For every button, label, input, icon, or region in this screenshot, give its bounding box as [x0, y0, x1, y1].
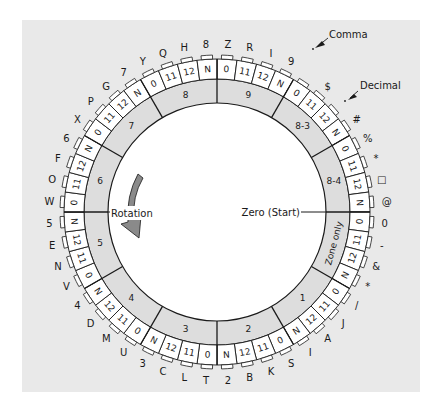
outer-character: U [120, 347, 127, 358]
outer-character: E [49, 240, 55, 251]
outer-character: Y [139, 56, 147, 67]
cell-code-label: 0 [204, 350, 211, 360]
sector-label: 8-4 [327, 176, 342, 186]
outer-character: D [87, 318, 95, 329]
outer-character: / [355, 300, 359, 311]
outer-character: L [181, 372, 187, 383]
outer-character: 5 [46, 218, 52, 229]
outer-character: 6 [63, 133, 69, 144]
outer-character: Q [159, 48, 167, 59]
print-wheel-diagram: 01112N01112N01112N01112N01112N01112N0111… [0, 0, 437, 408]
outer-character: O [48, 174, 56, 185]
cell-tab [369, 216, 374, 228]
outer-character: 8 [203, 39, 209, 50]
zero-start-label: Zero (Start) [242, 207, 301, 218]
cell-tab [369, 196, 374, 208]
cell-code-label: N [354, 199, 364, 206]
cell-code-label: 0 [355, 218, 365, 225]
outer-character: W [44, 196, 54, 207]
outer-character: # [352, 114, 360, 125]
outer-character: * [374, 153, 379, 164]
sector-label: 6 [97, 176, 103, 186]
outer-character: F [55, 153, 61, 164]
cell-code-label: 0 [69, 199, 79, 206]
outer-character: S [288, 358, 294, 369]
sector-label: 2 [245, 324, 251, 334]
decimal-annotation: Decimal [344, 80, 401, 102]
sector-label: 5 [97, 238, 103, 248]
cell-tab [201, 55, 213, 60]
cell-code-label: N [223, 349, 230, 359]
comma-label: Comma [329, 29, 368, 40]
outer-character: B [246, 372, 253, 383]
sector-label: 8 [183, 90, 189, 100]
cell-tab [60, 196, 65, 208]
cell-code-label: N [204, 64, 211, 74]
outer-character: X [74, 114, 81, 125]
outer-character: 2 [225, 375, 231, 386]
outer-character: K [268, 366, 275, 377]
outer-character: 0 [381, 218, 387, 229]
outer-character: 4 [74, 300, 80, 311]
sector-label: 9 [245, 90, 251, 100]
outer-character: R [246, 42, 253, 53]
cell-code-label: N [69, 218, 79, 225]
outer-character: H [180, 42, 188, 53]
outer-character: Z [225, 39, 232, 50]
outer-character: A [324, 333, 331, 344]
cell-tab [201, 364, 213, 369]
outer-character: □ [377, 174, 386, 185]
outer-character: 7 [120, 67, 126, 78]
outer-character: I [270, 48, 273, 59]
rotation-label: Rotation [111, 208, 153, 219]
outer-character: - [380, 240, 384, 251]
decimal-label: Decimal [360, 80, 401, 91]
outer-character: 9 [288, 56, 294, 67]
cell-tab [60, 216, 65, 228]
outer-character: 3 [140, 358, 146, 369]
sector-label: 4 [129, 293, 135, 303]
outer-character: M [102, 333, 111, 344]
cell-tab [221, 55, 233, 60]
outer-character: T [202, 375, 210, 386]
outer-character: G [102, 81, 110, 92]
sector-label: 8-3 [295, 121, 310, 131]
outer-character: @ [382, 196, 392, 207]
outer-character: $ [325, 81, 331, 92]
sector-label: 3 [183, 324, 189, 334]
outer-character: J [341, 318, 345, 329]
outer-character: V [63, 281, 70, 292]
outer-character: P [88, 96, 94, 107]
cell-code-label: 0 [223, 64, 230, 74]
cell-tab [221, 364, 233, 369]
sector-label: 7 [129, 121, 135, 131]
outer-character: * [365, 281, 370, 292]
outer-character: N [54, 261, 61, 272]
outer-character: & [372, 261, 380, 272]
outer-character: I [309, 347, 312, 358]
outer-character: C [160, 366, 167, 377]
outer-character: % [363, 133, 373, 144]
comma-annotation: Comma [312, 29, 368, 50]
sector-label: 1 [300, 293, 306, 303]
